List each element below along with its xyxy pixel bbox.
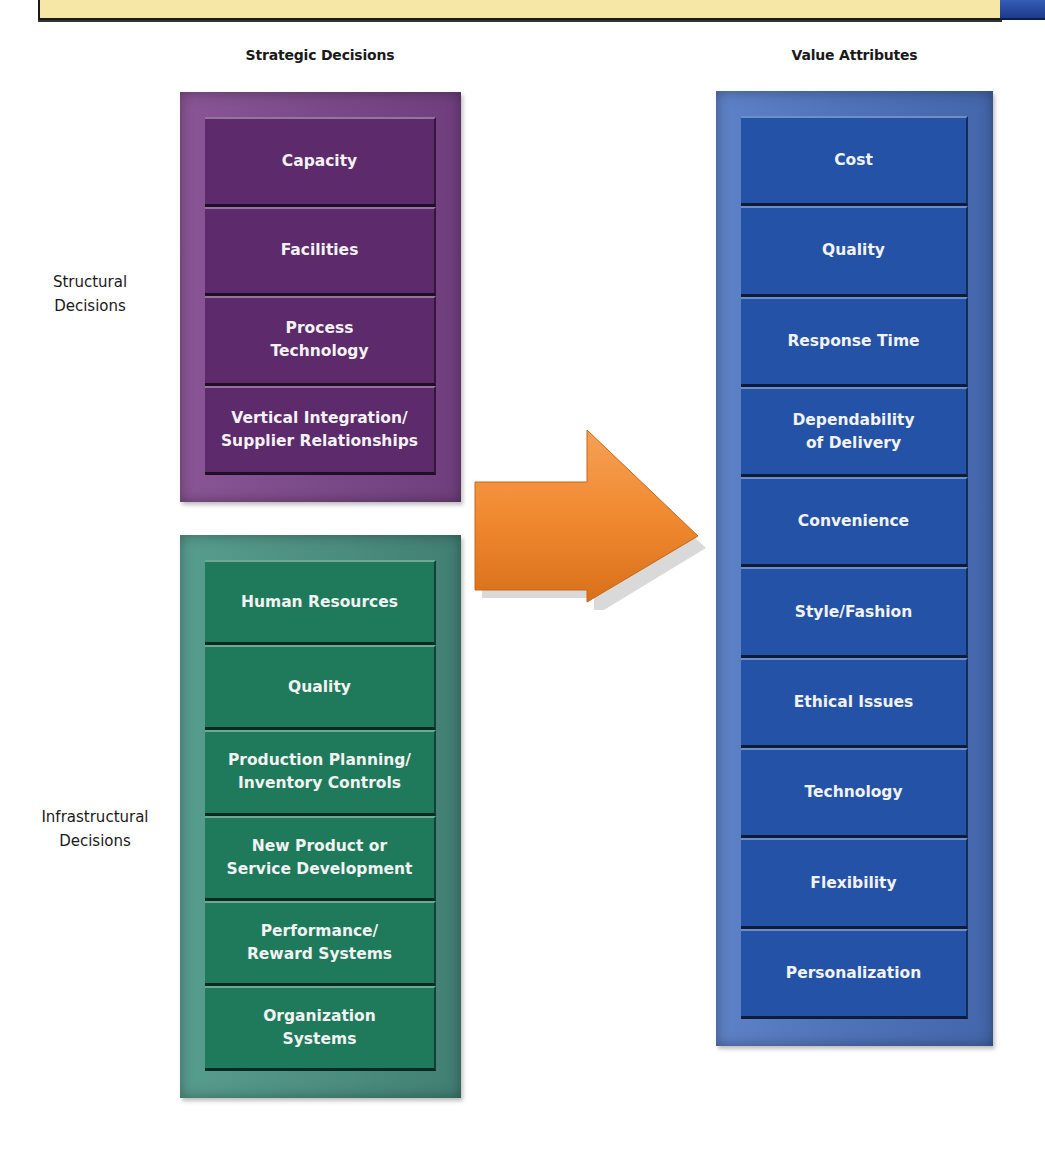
- right-arrow-icon: [470, 430, 710, 610]
- infrastructural-decision-cell: Production Planning/ Inventory Controls: [205, 730, 436, 815]
- infrastructural-decision-cell: Performance/ Reward Systems: [205, 901, 436, 986]
- value-attribute-cell: Technology: [741, 748, 968, 838]
- infrastructural-decision-cell: New Product or Service Development: [205, 816, 436, 901]
- label-structural-decisions: Structural Decisions: [30, 270, 150, 318]
- label-infrastructural-decisions: Infrastructural Decisions: [25, 805, 165, 853]
- banner-corner-tab: [1000, 0, 1045, 20]
- heading-strategic-decisions: Strategic Decisions: [180, 47, 460, 63]
- structural-decisions-panel: CapacityFacilitiesProcess TechnologyVert…: [180, 92, 461, 502]
- value-attribute-cell: Response Time: [741, 297, 968, 387]
- heading-value-attributes: Value Attributes: [716, 47, 993, 63]
- value-attribute-cell: Quality: [741, 206, 968, 296]
- infrastructural-decisions-panel: Human ResourcesQualityProduction Plannin…: [180, 535, 461, 1098]
- infrastructural-decision-cell: Organization Systems: [205, 986, 436, 1071]
- value-attribute-cell: Ethical Issues: [741, 658, 968, 748]
- value-attribute-cell: Cost: [741, 116, 968, 206]
- value-attribute-cell: Style/Fashion: [741, 567, 968, 657]
- infrastructural-decision-cell: Human Resources: [205, 560, 436, 645]
- value-attribute-cell: Dependability of Delivery: [741, 387, 968, 477]
- infrastructural-decision-cell: Quality: [205, 645, 436, 730]
- structural-decision-cell: Capacity: [205, 117, 436, 207]
- structural-decision-cell: Process Technology: [205, 296, 436, 386]
- structural-decision-cell: Vertical Integration/ Supplier Relations…: [205, 386, 436, 476]
- title-banner: [38, 0, 1002, 20]
- value-attribute-cell: Flexibility: [741, 838, 968, 928]
- value-attributes-panel: CostQualityResponse TimeDependability of…: [716, 91, 993, 1046]
- structural-decision-cell: Facilities: [205, 207, 436, 297]
- value-attribute-cell: Personalization: [741, 929, 968, 1019]
- value-attribute-cell: Convenience: [741, 477, 968, 567]
